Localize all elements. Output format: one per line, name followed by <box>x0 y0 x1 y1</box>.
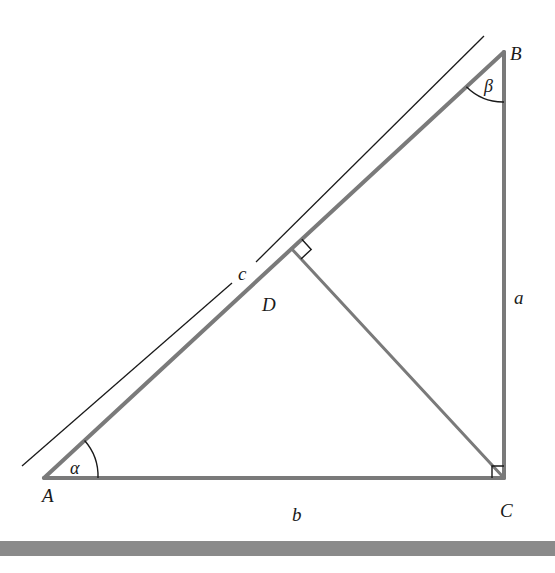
angle-label-alpha: α <box>70 458 80 478</box>
side-label-a: a <box>514 287 524 308</box>
triangle-diagram: A B C D a b c α β <box>0 0 555 573</box>
vertex-label-d: D <box>261 294 276 315</box>
side-c-hypotenuse <box>44 52 504 478</box>
dimension-line-c-lower <box>22 283 232 466</box>
bottom-divider-bar <box>0 541 555 556</box>
angle-label-beta: β <box>483 76 493 96</box>
right-angle-marker-d <box>301 239 311 259</box>
side-label-b: b <box>292 504 302 525</box>
side-label-c: c <box>238 263 247 284</box>
vertex-label-c: C <box>500 500 513 521</box>
angle-arc-alpha <box>85 441 98 479</box>
vertex-label-a: A <box>40 485 54 506</box>
altitude-cd <box>292 249 504 478</box>
dimension-line-c-upper <box>256 36 484 262</box>
vertex-label-b: B <box>510 43 522 64</box>
